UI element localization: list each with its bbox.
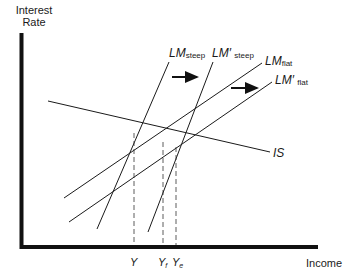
- is-curve: [48, 101, 270, 152]
- y-axis-label-line2: Rate: [6, 16, 62, 28]
- y-axis-label: Interest Rate: [6, 4, 62, 28]
- lm-flat-label: LMflat: [265, 55, 292, 70]
- is-label: IS: [273, 147, 284, 159]
- lm-flat-prime-curve: [69, 82, 272, 222]
- tick-y: Y: [130, 256, 137, 268]
- is-lm-diagram: [0, 0, 345, 274]
- lm-steep-label: LMsteep: [169, 47, 205, 62]
- y-axis-label-line1: Interest: [6, 4, 62, 16]
- tick-ye: Ye: [172, 256, 183, 272]
- x-axis-label: Income: [306, 257, 342, 269]
- lm-flat-prime-label: LM′ flat: [275, 74, 308, 89]
- lm-steep-prime-label: LM′ steep: [212, 47, 254, 62]
- tick-yf: Yf: [158, 256, 167, 272]
